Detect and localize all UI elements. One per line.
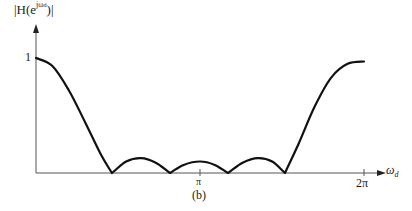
x-axis-label: ωd — [386, 163, 398, 179]
x-tick-label-2pi: 2π — [356, 176, 368, 191]
y-axis-label: |H(ejωd)| — [14, 2, 54, 18]
y-tick-label-1: 1 — [25, 50, 31, 65]
figure-caption: (b) — [192, 188, 206, 203]
magnitude-curve — [36, 58, 364, 173]
x-axis-arrow-icon — [377, 170, 386, 176]
x-tick-label-pi: π — [196, 176, 201, 187]
magnitude-response-plot — [0, 0, 412, 211]
y-axis-arrow-icon — [33, 24, 39, 33]
